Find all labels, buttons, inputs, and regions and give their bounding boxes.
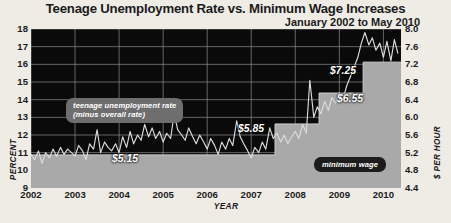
right-tick-7.6: 7.6 (405, 42, 431, 52)
x-tick-2007: 2007 (231, 190, 271, 200)
left-tick-17: 17 (4, 42, 28, 52)
x-tick-2008: 2008 (275, 190, 315, 200)
left-tick-11: 11 (4, 148, 28, 158)
right-tick-5.2: 5.2 (405, 148, 431, 158)
left-tick-15: 15 (4, 77, 28, 87)
right-tick-7.2: 7.2 (405, 59, 431, 69)
callout-teen-unemployment: teenage unemployment rate (minus overall… (66, 98, 183, 123)
right-tick-6.4: 6.4 (405, 95, 431, 105)
x-tick-2005: 2005 (143, 190, 183, 200)
x-tick-2002: 2002 (11, 190, 51, 200)
left-tick-18: 18 (4, 24, 28, 34)
left-tick-16: 16 (4, 59, 28, 69)
right-tick-5.6: 5.6 (405, 130, 431, 140)
left-tick-12: 12 (4, 130, 28, 140)
callout-minimum-wage: minimum wage (314, 157, 386, 172)
left-tick-10: 10 (4, 165, 28, 175)
x-tick-2004: 2004 (99, 190, 139, 200)
x-tick-2006: 2006 (187, 190, 227, 200)
x-tick-2003: 2003 (55, 190, 95, 200)
x-tick-2009: 2009 (319, 190, 359, 200)
left-axis-title: PERCENT (9, 130, 18, 190)
right-tick-4.4: 4.4 (405, 183, 431, 193)
chart-subtitle: January 2002 to May 2010 (285, 16, 420, 28)
wage-label-585: $5.85 (238, 123, 264, 134)
chart-root: Teenage Unemployment Rate vs. Minimum Wa… (0, 0, 451, 223)
wage-label-725: $7.25 (330, 65, 356, 76)
x-axis-title: YEAR (196, 201, 256, 211)
right-tick-6.8: 6.8 (405, 77, 431, 87)
wage-label-655: $6.55 (337, 93, 363, 104)
x-tick-2010: 2010 (363, 190, 403, 200)
wage-label-515: $5.15 (112, 153, 138, 164)
left-tick-14: 14 (4, 95, 28, 105)
right-tick-4.8: 4.8 (405, 165, 431, 175)
chart-title: Teenage Unemployment Rate vs. Minimum Wa… (0, 1, 451, 16)
right-axis-title: $ PER HOUR (433, 120, 442, 186)
left-tick-13: 13 (4, 112, 28, 122)
right-tick-6.0: 6.0 (405, 112, 431, 122)
